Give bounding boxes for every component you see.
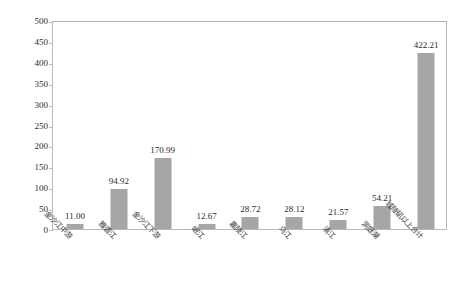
bar[interactable]	[110, 189, 127, 229]
x-tick-label: 金沙江中游	[66, 234, 99, 267]
x-tick-label: 清江	[329, 234, 347, 252]
bar-value-label: 94.92	[109, 177, 129, 186]
bar[interactable]	[418, 53, 435, 229]
bar-group: 422.21	[404, 22, 448, 229]
y-tick-label: 400	[22, 58, 48, 67]
y-tick-label: 250	[22, 121, 48, 130]
bar-group: 54.21	[360, 22, 404, 229]
bar-group: 170.99	[141, 22, 185, 229]
x-tick-label-slot: 洞庭湖	[359, 232, 403, 302]
x-tick-label-slot: 乌江	[271, 232, 315, 302]
y-axis-tick-labels: 500450400350300250200150100500	[22, 21, 48, 230]
bar-chart: 剩余可用库容(亿m³) 5004504003503002502001501005…	[0, 0, 465, 302]
x-tick-label: 雅砻江	[110, 234, 133, 257]
bar-group: 28.72	[229, 22, 273, 229]
y-tick-label: 500	[22, 17, 48, 26]
x-tick-label-slot: 金沙江中游	[52, 232, 96, 302]
y-tick-label: 50	[22, 205, 48, 214]
x-tick-label-slot: 岷江	[184, 232, 228, 302]
x-tick-label: 嘉陵江	[242, 234, 265, 257]
bar-value-label: 422.21	[414, 41, 439, 50]
plot-inner: 11.0094.92170.9912.6728.7228.1221.5754.2…	[53, 22, 446, 229]
bar-group: 94.92	[97, 22, 141, 229]
x-tick-label-slot: 雅砻江	[96, 232, 140, 302]
x-tick-label: 洞庭湖	[373, 234, 396, 257]
bar-group: 12.67	[185, 22, 229, 229]
bar-group: 28.12	[272, 22, 316, 229]
bar-value-label: 11.00	[65, 212, 85, 221]
y-tick-label: 450	[22, 37, 48, 46]
x-axis-tick-labels: 金沙江中游雅砻江金沙江下游岷江嘉陵江乌江清江洞庭湖城陵矶以上合计	[52, 232, 447, 302]
bar-group: 21.57	[316, 22, 360, 229]
y-tick-label: 300	[22, 100, 48, 109]
y-tick-mark	[49, 230, 53, 231]
y-tick-label: 350	[22, 79, 48, 88]
bar-value-label: 170.99	[150, 146, 175, 155]
bar-group: 11.00	[53, 22, 97, 229]
x-tick-label: 城陵矶以上合计	[417, 234, 459, 276]
x-tick-label-slot: 城陵矶以上合计	[403, 232, 447, 302]
y-tick-label: 0	[22, 226, 48, 235]
plot-area: 11.0094.92170.9912.6728.7228.1221.5754.2…	[52, 21, 447, 230]
bar-value-label: 28.12	[284, 205, 304, 214]
x-tick-label-slot: 金沙江下游	[140, 232, 184, 302]
x-tick-label: 乌江	[286, 234, 304, 252]
x-tick-label-slot: 嘉陵江	[228, 232, 272, 302]
y-tick-label: 150	[22, 163, 48, 172]
bar-value-label: 21.57	[328, 208, 348, 217]
bar-value-label: 12.67	[196, 212, 216, 221]
y-tick-label: 100	[22, 184, 48, 193]
x-tick-label: 岷江	[198, 234, 216, 252]
bar-value-label: 28.72	[240, 205, 260, 214]
x-tick-label-slot: 清江	[315, 232, 359, 302]
x-tick-label: 金沙江下游	[154, 234, 187, 267]
bar[interactable]	[154, 158, 171, 229]
y-tick-label: 200	[22, 142, 48, 151]
